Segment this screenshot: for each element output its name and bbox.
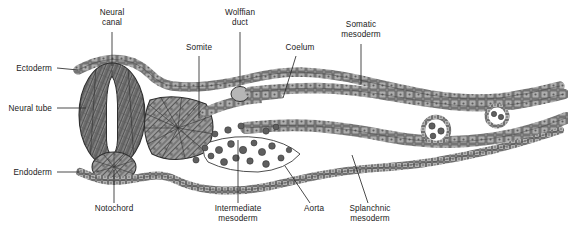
neural-tube: [78, 63, 146, 167]
figure-canvas: EctodermNeural tubeEndodermNeuralcanalSo…: [0, 0, 568, 232]
neural-canal-lumen: [107, 76, 118, 156]
label-coelum: Coelum: [286, 43, 315, 53]
label-intermediate-mesoderm: Intermediatemesoderm: [215, 204, 262, 224]
blood-vessel-right: [487, 106, 508, 127]
label-wolffian-duct: Wolffianduct: [225, 8, 255, 28]
label-endoderm: Endoderm: [13, 168, 52, 178]
embryo-cross-section-drawing: [0, 0, 568, 232]
label-aorta: Aorta: [304, 204, 324, 214]
label-notochord: Notochord: [95, 204, 134, 214]
label-somite: Somite: [186, 43, 212, 53]
label-splanchnic-mesoderm: Splanchnicmesoderm: [349, 204, 390, 224]
blood-vessel-left: [423, 117, 449, 143]
label-neural-tube: Neural tube: [9, 104, 52, 114]
label-ectoderm: Ectoderm: [16, 64, 52, 74]
label-neural-canal: Neuralcanal: [100, 8, 125, 28]
label-somatic-mesoderm: Somaticmesoderm: [341, 20, 380, 40]
